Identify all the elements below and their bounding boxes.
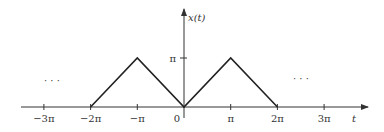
y-axis-label: x(t) [188, 12, 206, 23]
ellipsis-left: · · · [44, 75, 60, 86]
x-tick-label: −2π [80, 113, 102, 124]
triangular-wave-plot: −3π−2π−π0π2π3π π x(t) t · · · · · · [0, 0, 384, 132]
x-tick-label: π [227, 113, 234, 124]
x-tick-label: 0 [174, 113, 180, 124]
y-tick-label: π [169, 53, 176, 64]
x-tick-label: −π [130, 113, 145, 124]
x-axis-label: t [352, 113, 357, 124]
x-tick-label: 3π [318, 113, 331, 124]
ellipsis-right: · · · [293, 73, 309, 84]
x-tick-label: 2π [271, 113, 284, 124]
x-tick-label: −3π [33, 113, 55, 124]
